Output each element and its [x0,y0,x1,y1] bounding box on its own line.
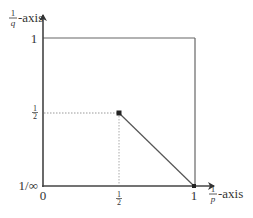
x-axis-label: 1 p -axis [209,184,243,204]
svg-text:2: 2 [117,198,121,207]
y-tick-inverse-infinity: 1/∞ [19,178,38,193]
interpolation-segment [119,113,194,186]
y-tick-half: 1 2 [32,104,38,121]
x-tick-zero: 0 [40,188,47,203]
y-tick-one: 1 [31,31,38,46]
point-half-half [117,111,122,116]
svg-text:-axis: -axis [218,186,243,201]
svg-text:1: 1 [11,8,16,18]
svg-text:p: p [210,194,216,204]
x-tick-half: 1 2 [116,190,122,207]
y-axis-label: 1 q -axis [9,8,43,28]
diagram-canvas: 1 q -axis 1 1 2 1/∞ 0 1 2 1 1 p -axis [0,0,253,218]
svg-text:2: 2 [33,112,37,121]
svg-text:-axis: -axis [18,10,43,25]
svg-text:q: q [11,18,16,28]
svg-text:1: 1 [211,184,216,194]
x-tick-one: 1 [191,188,198,203]
